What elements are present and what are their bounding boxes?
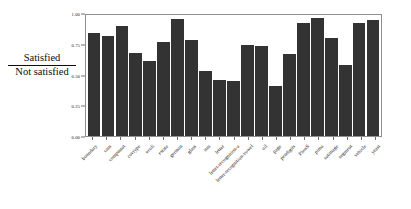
bar	[339, 65, 352, 136]
bar	[143, 61, 156, 136]
x-axis-tick-label: letter	[214, 143, 226, 155]
bar	[116, 26, 129, 136]
x-axis-tick-mark	[163, 137, 164, 140]
y-axis-tick-label: 1.00	[54, 12, 80, 17]
bar	[269, 86, 282, 136]
bar-slot	[282, 15, 296, 136]
bar	[171, 19, 184, 136]
bar-slot	[129, 15, 143, 136]
x-axis-tick-mark	[375, 137, 376, 140]
bar-slot	[185, 15, 199, 136]
x-axis-tick-mark	[262, 137, 263, 140]
bar	[102, 36, 115, 136]
bar-slot	[115, 15, 129, 136]
x-axis-tick-mark	[347, 137, 348, 140]
bar-slot	[227, 15, 241, 136]
plot-area	[85, 14, 382, 137]
x-axis-tick-label: cam	[102, 143, 112, 153]
x-axis-tick-label: oil	[260, 143, 268, 151]
x-axis-tick-label: PhosS	[297, 143, 310, 156]
y-axis-tick-label: 0.00	[54, 135, 80, 140]
bar-slot	[366, 15, 380, 136]
bar	[255, 46, 268, 136]
x-axis-tick-mark	[361, 137, 362, 140]
bar-slot	[352, 15, 366, 136]
bar-slot	[310, 15, 324, 136]
bar-slot	[171, 15, 185, 136]
bar	[227, 81, 240, 136]
bar	[88, 33, 101, 136]
x-axis-tick-label: ism	[202, 143, 212, 153]
x-axis-tick-mark	[248, 137, 249, 140]
bar	[199, 71, 212, 136]
bar-slot	[254, 15, 268, 136]
bar-chart-figure: Satisfied Not satisfied 0.000.250.500.75…	[0, 0, 411, 209]
y-axis-tick-label: 0.25	[54, 104, 80, 109]
x-axis-tick-mark	[177, 137, 178, 140]
x-axis-tick-label: pima	[313, 143, 325, 155]
bar-slot	[296, 15, 310, 136]
bar	[353, 23, 366, 136]
x-axis-tick-label: german	[168, 143, 183, 158]
x-axis-tick-label: ecoli	[143, 143, 154, 154]
x-axis-tick-label: vehicle	[352, 143, 367, 158]
bar-slot	[87, 15, 101, 136]
x-axis-tick-mark	[318, 137, 319, 140]
y-axis-tick-label: 0.50	[54, 73, 80, 78]
x-axis-tick-mark	[191, 137, 192, 140]
x-axis-tick-label: boundary	[80, 143, 98, 161]
bar-slot	[213, 15, 227, 136]
x-axis-tick-mark	[149, 137, 150, 140]
bar-slot	[324, 15, 338, 136]
x-axis-tick-mark	[92, 137, 93, 140]
bar	[297, 23, 310, 136]
bar	[185, 40, 198, 136]
x-axis-tick-mark	[290, 137, 291, 140]
bar	[241, 45, 254, 136]
x-axis-tick-label: page	[271, 143, 282, 154]
x-axis-tick-label: glass	[186, 143, 198, 155]
bar-slot	[101, 15, 115, 136]
bar-slot	[338, 15, 352, 136]
x-axis-tick-label: yeast	[369, 143, 381, 155]
bar	[213, 80, 226, 136]
bar	[283, 54, 296, 136]
bar	[157, 42, 170, 136]
x-axis-tick-label: covtype	[125, 143, 141, 159]
bar-slot	[199, 15, 213, 136]
bar-slot	[240, 15, 254, 136]
y-axis-tick-label: 0.75	[54, 42, 80, 47]
x-axis-tick-mark	[219, 137, 220, 140]
bar-slot	[143, 15, 157, 136]
bar-slot	[157, 15, 171, 136]
x-axis-tick-label: satimage	[321, 143, 338, 160]
bar	[311, 18, 324, 136]
x-axis-tick-mark	[234, 137, 235, 140]
x-axis-tick-mark	[276, 137, 277, 140]
x-axis-tick-mark	[135, 137, 136, 140]
x-axis-tick-mark	[106, 137, 107, 140]
bar	[325, 38, 338, 136]
bar	[129, 53, 142, 136]
x-axis-tick-mark	[205, 137, 206, 140]
bar-slot	[268, 15, 282, 136]
x-axis-tick-mark	[333, 137, 334, 140]
y-axis-label-numerator: Satisfied	[8, 52, 76, 64]
x-axis-tick-mark	[304, 137, 305, 140]
bar-series	[86, 15, 381, 136]
bar	[367, 20, 380, 136]
x-axis-tick-mark	[120, 137, 121, 140]
